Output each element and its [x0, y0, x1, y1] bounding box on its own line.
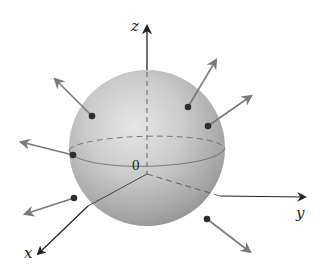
normal-vector [204, 216, 250, 252]
sphere-normal-vectors-diagram: z y x 0 [0, 0, 322, 267]
normal-vector [25, 195, 77, 214]
normal-vector-arrow [21, 142, 73, 155]
surface-point [89, 113, 96, 120]
surface-point [204, 216, 211, 223]
normal-vector-arrow [25, 198, 74, 214]
x-axis-outer [38, 206, 88, 254]
normal-vector [21, 142, 76, 158]
surface-point [71, 195, 78, 202]
surface-point [185, 104, 192, 111]
origin-label: 0 [132, 157, 140, 173]
normal-vector-arrow [55, 79, 92, 116]
z-axis-label: z [130, 17, 139, 35]
y-axis-outer [220, 196, 305, 197]
surface-point [70, 152, 77, 159]
normal-vector-arrow [207, 219, 250, 252]
y-axis-label: y [295, 204, 305, 222]
x-axis-label: x [24, 244, 33, 262]
surface-point [205, 123, 212, 130]
